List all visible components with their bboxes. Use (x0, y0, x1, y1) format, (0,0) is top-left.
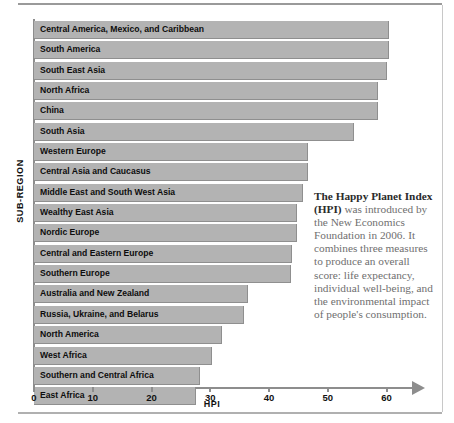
bar-row: South America (34, 41, 434, 58)
bar-label: Nordic Europe (40, 224, 99, 241)
bar-label: West Africa (40, 347, 87, 364)
bar-label: Russia, Ukraine, and Belarus (40, 306, 158, 323)
bar-label: Australia and New Zealand (40, 285, 149, 302)
bar-label: Southern Europe (40, 265, 110, 282)
bar-label: Southern and Central Africa (40, 367, 154, 384)
x-axis-title: HPI (0, 399, 424, 409)
y-axis-title: SUB-REGION (15, 131, 25, 251)
right-divider (442, 5, 443, 412)
bar-label: South East Asia (40, 62, 105, 79)
bar-label: South America (40, 41, 100, 58)
bar-label: Western Europe (40, 143, 106, 160)
bar-row: South East Asia (34, 62, 434, 79)
bar-label: China (40, 102, 64, 119)
caption-note-body: was introduced by the New Economics Foun… (314, 203, 433, 320)
bar-label: South Asia (40, 123, 85, 140)
bar-row: Western Europe (34, 143, 434, 160)
bar-label: Central America, Mexico, and Caribbean (40, 21, 204, 38)
bar-row: Central Asia and Caucasus (34, 163, 434, 180)
bar-row: South Asia (34, 123, 434, 140)
chart-figure: SUB-REGION Central America, Mexico, and … (0, 0, 454, 423)
bar-label: North Africa (40, 82, 89, 99)
caption-note: The Happy Planet Index (HPI) was introdu… (314, 190, 438, 321)
bar-label: Wealthy East Asia (40, 204, 114, 221)
bar (34, 102, 378, 120)
bar-row: China (34, 102, 434, 119)
bar-row: North Africa (34, 82, 434, 99)
top-divider (18, 3, 442, 5)
bar-row: West Africa (34, 347, 434, 364)
bar-row: North America (34, 326, 434, 343)
bar-label: Middle East and South West Asia (40, 184, 175, 201)
bar-row: Southern and Central Africa (34, 367, 434, 384)
bar-label: Central and Eastern Europe (40, 245, 153, 262)
bar-row: Central America, Mexico, and Caribbean (34, 21, 434, 38)
bar-label: North America (40, 326, 99, 343)
bar-label: Central Asia and Caucasus (40, 163, 151, 180)
